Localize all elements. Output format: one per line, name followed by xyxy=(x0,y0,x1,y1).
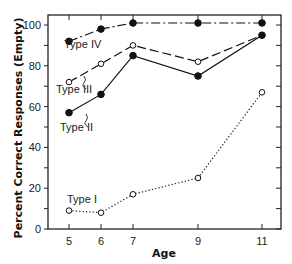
filled-circle-marker-icon xyxy=(98,91,105,98)
x-tick-label: 6 xyxy=(98,235,104,247)
filled-circle-marker-icon xyxy=(98,26,105,33)
filled-circle-marker-icon xyxy=(130,20,137,27)
filled-circle-marker-icon xyxy=(195,73,202,80)
open-circle-marker-icon xyxy=(98,210,104,216)
filled-circle-marker-icon xyxy=(259,20,266,27)
filled-circle-marker-icon xyxy=(195,20,202,27)
x-tick-label: 7 xyxy=(130,235,136,247)
label-type-iv: Type IV xyxy=(64,38,102,50)
filled-circle-marker-icon xyxy=(259,32,266,39)
label-type-iii: Type III xyxy=(56,83,92,95)
open-circle-marker-icon xyxy=(66,208,72,214)
x-axis-label: Age xyxy=(152,247,176,260)
y-axis-label: Percent Correct Responses (Empty) xyxy=(12,18,25,239)
label-type-ii: Type II xyxy=(60,121,93,133)
x-tick-label: 5 xyxy=(66,235,72,247)
x-tick-label: 11 xyxy=(256,235,267,247)
line-chart: 020406080100567911 Age Percent Correct R… xyxy=(0,0,292,264)
y-tick-label: 80 xyxy=(29,60,41,72)
series-line xyxy=(69,92,262,212)
y-tick-label: 0 xyxy=(35,223,41,235)
open-circle-marker-icon xyxy=(130,192,136,198)
y-tick-label: 60 xyxy=(29,101,41,113)
y-tick-label: 20 xyxy=(29,182,41,194)
open-circle-marker-icon xyxy=(195,59,201,65)
open-circle-marker-icon xyxy=(195,175,201,181)
y-tick-label: 40 xyxy=(29,141,41,153)
label-type-i: Type I xyxy=(67,193,97,205)
open-circle-marker-icon xyxy=(259,90,265,96)
filled-circle-marker-icon xyxy=(130,52,137,59)
filled-circle-marker-icon xyxy=(66,109,73,116)
y-tick-label: 100 xyxy=(23,19,41,31)
open-circle-marker-icon xyxy=(98,61,104,67)
x-tick-label: 9 xyxy=(195,235,201,247)
open-circle-marker-icon xyxy=(130,43,136,49)
